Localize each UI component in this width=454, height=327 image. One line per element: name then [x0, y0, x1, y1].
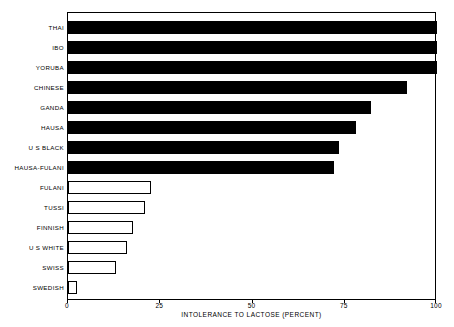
category-label: FINNISH [0, 224, 64, 232]
category-label: GANDA [0, 104, 64, 112]
category-label: CHINESE [0, 84, 64, 92]
bar [68, 261, 116, 274]
bar [68, 201, 145, 214]
plot-frame [67, 12, 436, 300]
category-label: SWISS [0, 264, 64, 272]
bar [68, 281, 77, 294]
x-tick-label: 25 [155, 302, 163, 309]
category-label: U S WHITE [0, 244, 64, 252]
x-tick-label: 50 [248, 302, 256, 309]
x-tick-label: 0 [65, 302, 69, 309]
category-label: YORUBA [0, 64, 64, 72]
category-label: IBO [0, 44, 64, 52]
x-tick-label: 75 [340, 302, 348, 309]
category-label: SWEDISH [0, 284, 64, 292]
category-axis: THAIIBOYORUBACHINESEGANDAHAUSAU S BLACKH… [0, 12, 64, 300]
category-label: THAI [0, 24, 64, 32]
bar [68, 81, 407, 94]
bar [68, 181, 151, 194]
x-tick-label: 100 [430, 302, 441, 309]
bars-layer [68, 13, 437, 301]
bar [68, 61, 437, 74]
bar [68, 141, 339, 154]
bar [68, 221, 133, 234]
category-label: U S BLACK [0, 144, 64, 152]
bar [68, 101, 371, 114]
category-label: FULANI [0, 184, 64, 192]
bar [68, 21, 437, 34]
lactose-intolerance-bar-chart: THAIIBOYORUBACHINESEGANDAHAUSAU S BLACKH… [0, 0, 454, 327]
category-label: HAUSA-FULANI [0, 164, 64, 172]
bar [68, 241, 127, 254]
bar [68, 121, 356, 134]
bar [68, 161, 334, 174]
bar [68, 41, 437, 54]
x-axis-title: INTOLERANCE TO LACTOSE (PERCENT) [67, 311, 436, 318]
category-label: TUSSI [0, 204, 64, 212]
category-label: HAUSA [0, 124, 64, 132]
